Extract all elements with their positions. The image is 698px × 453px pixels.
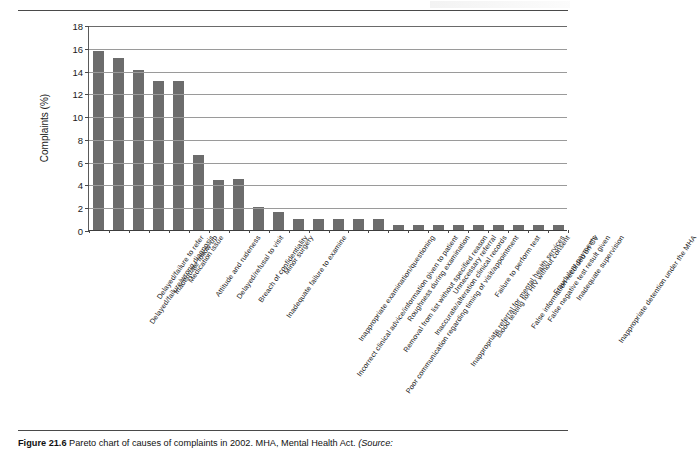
x-axis-label: Incorrect clinical advice/information gi…	[355, 234, 459, 378]
y-tick-label-18: 18	[72, 21, 83, 32]
x-tick-mark	[149, 230, 150, 233]
bar	[113, 58, 124, 230]
y-tick-mark-0	[85, 231, 89, 232]
bar	[213, 180, 224, 230]
x-tick-mark	[129, 230, 130, 233]
y-tick-label-8: 8	[78, 134, 83, 145]
x-tick-mark	[229, 230, 230, 233]
y-tick-mark-6	[85, 163, 89, 164]
x-tick-mark	[508, 230, 509, 233]
figure-caption: Figure 21.6 Pareto chart of causes of co…	[18, 437, 574, 449]
bar	[373, 219, 384, 230]
x-tick-mark	[289, 230, 290, 233]
bar	[293, 219, 304, 230]
x-tick-mark	[309, 230, 310, 233]
x-tick-mark	[548, 230, 549, 233]
figure-number: Figure 21.6	[18, 438, 67, 448]
bar	[253, 207, 264, 230]
x-tick-mark	[468, 230, 469, 233]
y-tick-mark-14	[85, 72, 89, 73]
gridline-10	[89, 117, 567, 118]
y-tick-mark-4	[85, 185, 89, 186]
x-tick-mark	[388, 230, 389, 233]
caption-rule	[18, 430, 568, 431]
gridline-4	[89, 185, 567, 186]
x-tick-mark	[528, 230, 529, 233]
plot-area: 024681012141618	[88, 26, 567, 231]
bar	[333, 219, 344, 230]
y-tick-label-0: 0	[78, 226, 83, 237]
y-tick-label-6: 6	[78, 157, 83, 168]
bar	[273, 212, 284, 230]
gridline-16	[89, 49, 567, 50]
x-tick-mark	[368, 230, 369, 233]
x-tick-mark	[329, 230, 330, 233]
y-tick-label-14: 14	[72, 66, 83, 77]
x-axis-label: Inappropriate detention under the MHA	[617, 234, 698, 344]
pareto-chart: Complaints (%) 024681012141618 Delayed/f…	[0, 0, 586, 420]
x-tick-mark	[448, 230, 449, 233]
y-tick-mark-8	[85, 140, 89, 141]
gridline-8	[89, 140, 567, 141]
x-tick-mark	[249, 230, 250, 233]
y-tick-label-10: 10	[72, 112, 83, 123]
y-tick-mark-18	[85, 26, 89, 27]
x-axis-category-labels: Delayed/failure/wrong diagnosisDelayed/f…	[88, 234, 567, 384]
y-tick-label-16: 16	[72, 43, 83, 54]
bar	[353, 219, 364, 230]
bar	[193, 155, 204, 230]
gridline-12	[89, 94, 567, 95]
x-tick-mark-origin	[89, 230, 90, 233]
x-tick-mark	[269, 230, 270, 233]
bar	[233, 179, 244, 230]
gridline-14	[89, 72, 567, 73]
y-tick-label-4: 4	[78, 180, 83, 191]
x-tick-mark	[169, 230, 170, 233]
figure-caption-source: (Source:	[358, 438, 393, 448]
x-tick-mark	[348, 230, 349, 233]
y-tick-label-12: 12	[72, 89, 83, 100]
x-tick-mark	[488, 230, 489, 233]
x-tick-mark	[189, 230, 190, 233]
bar-series	[89, 26, 567, 230]
y-tick-mark-2	[85, 208, 89, 209]
x-tick-mark	[408, 230, 409, 233]
y-tick-mark-16	[85, 49, 89, 50]
y-tick-label-2: 2	[78, 203, 83, 214]
gridline-18	[89, 26, 567, 27]
y-axis-title: Complaints (%)	[39, 94, 50, 162]
figure-caption-text: Pareto chart of causes of complaints in …	[69, 438, 356, 448]
gridline-2	[89, 208, 567, 209]
x-tick-mark	[568, 230, 569, 233]
gridline-6	[89, 163, 567, 164]
x-tick-mark	[109, 230, 110, 233]
y-tick-mark-10	[85, 117, 89, 118]
bar	[313, 219, 324, 230]
y-tick-mark-12	[85, 94, 89, 95]
x-tick-mark	[209, 230, 210, 233]
